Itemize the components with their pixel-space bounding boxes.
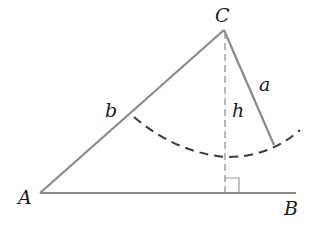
vertex-c-label: C <box>215 4 230 26</box>
vertex-a-label: A <box>16 186 32 208</box>
side-b-line <box>40 30 224 193</box>
altitude-h-label: h <box>232 99 244 121</box>
side-a-label: a <box>259 73 270 95</box>
right-angle-marker <box>225 178 239 193</box>
side-b-label: b <box>105 99 117 121</box>
radius-a-arc <box>134 117 300 157</box>
vertex-b-label: B <box>283 197 298 219</box>
triangle-diagram: A B C a b h <box>0 0 319 235</box>
